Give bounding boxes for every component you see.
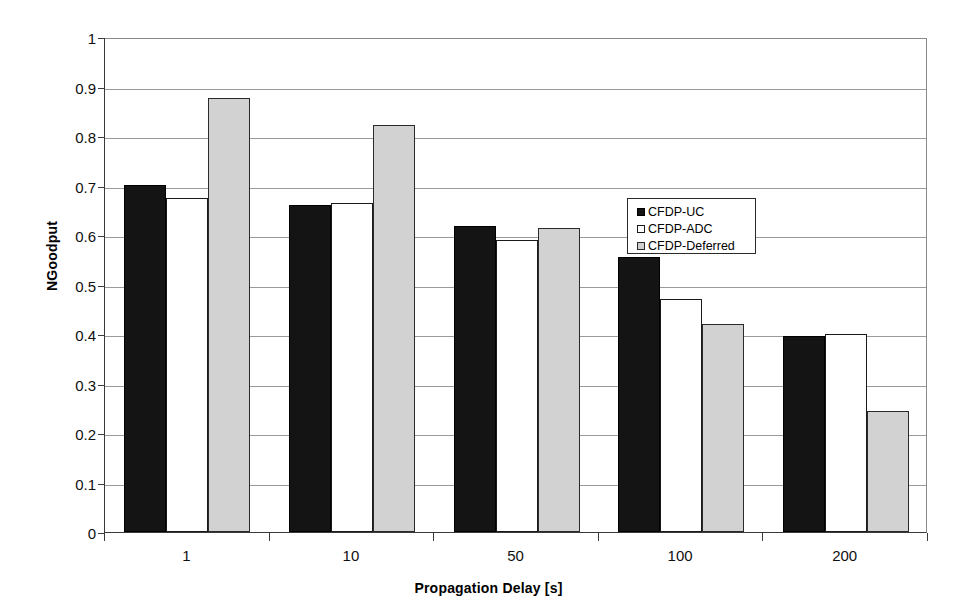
chart-figure: NGoodput 00.10.20.30.40.50.60.70.80.91 1… <box>0 0 977 615</box>
x-tick-label: 100 <box>620 548 740 564</box>
x-tick-label: 200 <box>785 548 905 564</box>
legend-item: CFDP-UC <box>637 204 755 220</box>
y-tick-label: 1 <box>50 31 96 46</box>
legend-label: CFDP-Deferred <box>648 240 735 253</box>
bar-cfdp-deferred-1 <box>208 98 250 532</box>
y-tick-label: 0.1 <box>50 476 96 491</box>
legend-label: CFDP-UC <box>648 206 704 219</box>
bar-cfdp-adc-50 <box>496 240 538 532</box>
y-tick-label: 0.8 <box>50 130 96 145</box>
y-tick-mark <box>98 385 105 386</box>
x-tick-mark <box>104 533 105 541</box>
gridline <box>105 89 926 90</box>
y-tick-label: 0.5 <box>50 278 96 293</box>
bar-cfdp-uc-10 <box>289 205 331 532</box>
y-tick-label: 0.4 <box>50 328 96 343</box>
bar-cfdp-adc-1 <box>166 198 208 532</box>
y-tick-mark <box>98 236 105 237</box>
y-tick-mark <box>98 286 105 287</box>
y-tick-label: 0.7 <box>50 179 96 194</box>
bar-cfdp-uc-200 <box>783 336 825 533</box>
legend-label: CFDP-ADC <box>648 223 713 236</box>
x-tick-label: 10 <box>291 548 411 564</box>
y-tick-mark <box>98 335 105 336</box>
y-tick-mark <box>98 484 105 485</box>
chart-legend: CFDP-UCCFDP-ADCCFDP-Deferred <box>627 198 756 254</box>
x-tick-label: 50 <box>456 548 576 564</box>
bar-cfdp-deferred-50 <box>538 228 580 532</box>
y-tick-mark <box>98 434 105 435</box>
bar-cfdp-deferred-100 <box>702 324 744 532</box>
y-axis-tick-labels: 00.10.20.30.40.50.60.70.80.91 <box>40 38 96 533</box>
legend-item: CFDP-Deferred <box>637 238 755 254</box>
y-tick-mark <box>98 137 105 138</box>
bar-cfdp-deferred-200 <box>867 411 909 532</box>
y-tick-mark <box>98 38 105 39</box>
x-tick-mark <box>598 533 599 541</box>
x-tick-mark <box>269 533 270 541</box>
bar-cfdp-uc-1 <box>124 185 166 532</box>
bar-cfdp-deferred-10 <box>373 125 415 532</box>
x-tick-mark <box>762 533 763 541</box>
bar-cfdp-adc-100 <box>660 299 702 532</box>
y-tick-label: 0.6 <box>50 229 96 244</box>
y-tick-label: 0 <box>50 526 96 541</box>
y-tick-mark <box>98 88 105 89</box>
x-tick-label: 1 <box>126 548 246 564</box>
bar-cfdp-uc-100 <box>618 257 660 532</box>
x-tick-mark <box>433 533 434 541</box>
x-tick-mark <box>927 533 928 541</box>
y-tick-mark <box>98 187 105 188</box>
legend-swatch-icon <box>637 242 645 250</box>
y-tick-label: 0.2 <box>50 427 96 442</box>
bar-cfdp-adc-10 <box>331 203 373 532</box>
y-tick-label: 0.3 <box>50 377 96 392</box>
bar-cfdp-adc-200 <box>825 334 867 532</box>
bar-cfdp-uc-50 <box>454 226 496 532</box>
plot-area <box>104 38 927 533</box>
legend-swatch-icon <box>637 225 645 233</box>
legend-swatch-icon <box>637 208 645 216</box>
legend-item: CFDP-ADC <box>637 221 755 237</box>
x-axis-title: Propagation Delay [s] <box>0 580 977 596</box>
y-tick-label: 0.9 <box>50 80 96 95</box>
